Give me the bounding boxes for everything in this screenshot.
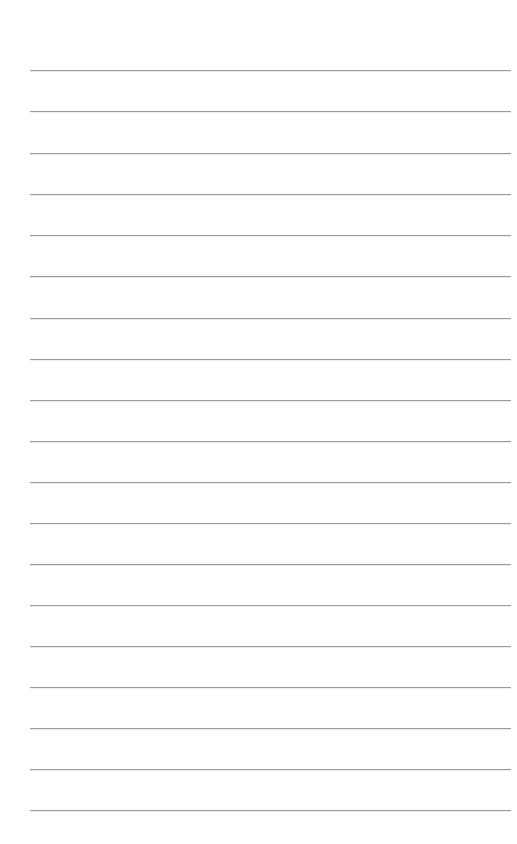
ruled-line: [30, 276, 511, 277]
ruled-line: [30, 153, 511, 154]
ruled-line: [30, 111, 511, 112]
ruled-line: [30, 441, 511, 442]
ruled-line: [30, 359, 511, 360]
ruled-line: [30, 400, 511, 401]
ruled-line: [30, 482, 511, 483]
ruled-line: [30, 687, 511, 688]
ruled-line: [30, 605, 511, 606]
ruled-line: [30, 235, 511, 236]
ruled-line: [30, 318, 511, 319]
ruled-line: [30, 769, 511, 770]
ruled-line: [30, 810, 511, 811]
ruled-line: [30, 728, 511, 729]
ruled-line: [30, 194, 511, 195]
ruled-line: [30, 564, 511, 565]
lined-page: [0, 0, 517, 844]
ruled-line: [30, 70, 511, 71]
ruled-line: [30, 523, 511, 524]
ruled-line: [30, 646, 511, 647]
